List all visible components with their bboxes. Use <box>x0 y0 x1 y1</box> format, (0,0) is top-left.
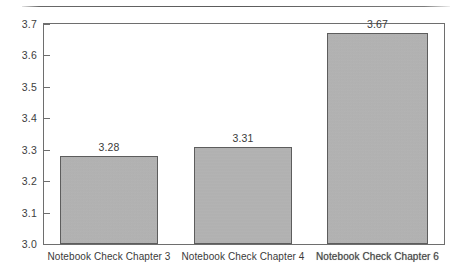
y-axis-tick-label: 3.1 <box>22 207 37 219</box>
y-axis-tick-label: 3.0 <box>22 238 37 250</box>
bar: 3.67 <box>327 33 428 244</box>
y-axis-tick-mark <box>44 55 50 56</box>
bar-value-label: 3.28 <box>98 141 119 153</box>
y-axis-tick-mark <box>44 213 50 214</box>
plot-area: 3.73.63.53.43.33.23.13.0 3.283.313.67 <box>44 24 444 244</box>
plot-frame: 3.73.63.53.43.33.23.13.0 3.283.313.67 <box>43 23 445 245</box>
top-horizontal-rule <box>22 6 450 7</box>
y-axis-tick-mark <box>44 181 50 182</box>
bar-value-label: 3.67 <box>367 18 388 30</box>
y-axis-tick-label: 3.5 <box>22 81 37 93</box>
y-axis-tick-label: 3.3 <box>22 144 37 156</box>
y-axis-tick-mark <box>44 24 50 25</box>
y-axis-tick-mark <box>44 150 50 151</box>
y-axis-tick-label: 3.2 <box>22 175 37 187</box>
bar: 3.28 <box>60 156 158 244</box>
bar: 3.31 <box>194 147 292 244</box>
x-axis-category-label: Notebook Check Chapter 6 <box>316 251 439 262</box>
bar-value-label: 3.31 <box>232 132 253 144</box>
y-axis-tick-mark <box>44 244 50 245</box>
y-axis-tick-label: 3.6 <box>22 49 37 61</box>
y-axis-tick-mark <box>44 87 50 88</box>
y-axis-tick-label: 3.7 <box>22 18 37 30</box>
x-axis-category-label: Notebook Check Chapter 4 <box>181 251 304 262</box>
y-axis-tick-mark <box>44 118 50 119</box>
y-axis-tick-label: 3.4 <box>22 112 37 124</box>
x-axis-category-label: Notebook Check Chapter 3 <box>47 251 170 262</box>
